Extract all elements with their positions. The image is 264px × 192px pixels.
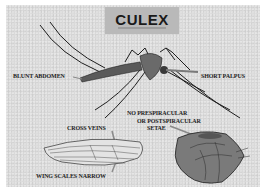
leg-hind-1 [40,25,100,72]
palpus [166,70,198,72]
culex-diagram: CULEX [0,0,264,192]
label-no-setae-3: SETAE [147,125,166,132]
label-no-setae-1: NO PRESPIRACULAR [127,110,187,117]
label-short-palpus: SHORT PALPUS [201,73,245,80]
spiracle-area [198,133,222,139]
leg-hind-2 [50,22,105,68]
label-cross-veins: CROSS VEINS [67,125,106,132]
thorax [140,53,162,80]
label-no-setae-2: OR POSTSPIRACULAR [137,118,201,125]
thorax-side-view [175,132,244,183]
label-wing-scales: WING SCALES NARROW [36,173,106,180]
label-blunt-abdomen: BLUNT ABDOMEN [13,73,65,80]
mosquito-illustration [0,0,264,192]
